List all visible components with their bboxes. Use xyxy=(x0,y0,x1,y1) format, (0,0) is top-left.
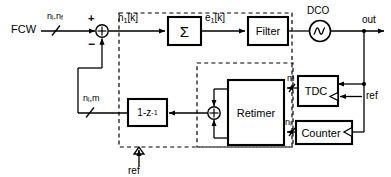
feedback-bus-label: ni,m xyxy=(83,94,99,104)
ni-sub: i xyxy=(290,120,291,127)
e1-idx: [k] xyxy=(215,12,226,23)
tdc-label: TDC xyxy=(298,76,334,106)
counter-label: Counter xyxy=(296,121,346,144)
filter-label: Filter xyxy=(248,17,288,45)
dco-label: DCO xyxy=(307,6,329,16)
ref-label-bottom: ref xyxy=(128,166,140,176)
fcw-bus-width-label: ni.nf xyxy=(47,12,63,22)
fcw-label: FCW xyxy=(11,24,36,35)
fcw-bus-f-sub: f xyxy=(61,14,63,21)
dco-circle xyxy=(310,21,331,42)
fcw-bus-sep: .n xyxy=(53,11,61,21)
sum-minus-sign: − xyxy=(88,38,95,50)
ref-label-tdc: ref xyxy=(366,91,378,101)
m-bus-label: m xyxy=(287,74,295,83)
out-label: out xyxy=(362,15,376,25)
adpll-block-diagram: FCW ni.nf + − n1[k] Σ e1[k] Filter DCO o… xyxy=(0,0,391,177)
retimer-label: Retimer xyxy=(228,80,284,145)
diff-sup: -1 xyxy=(151,108,157,117)
error-signal-label: e1[k] xyxy=(205,13,225,24)
accumulator-label: Σ xyxy=(168,17,201,45)
fb-m: ,m xyxy=(89,93,99,103)
phase-error-input-label: n1[k] xyxy=(118,13,138,24)
differentiator-label: 1-z-1 xyxy=(128,99,167,126)
sum-plus-sign: + xyxy=(88,13,94,24)
ni-bus-label: ni xyxy=(285,118,291,128)
n1-idx: [k] xyxy=(128,12,139,23)
diff-pre: 1-z xyxy=(137,107,151,118)
